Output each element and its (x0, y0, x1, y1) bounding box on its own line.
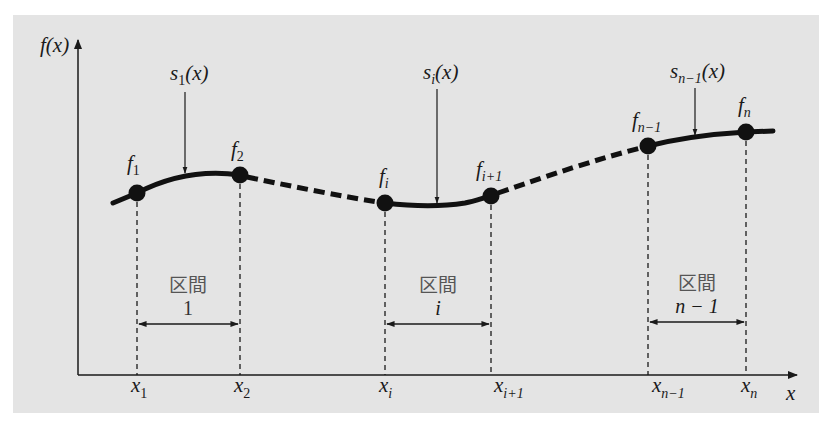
knot-point-n (738, 124, 755, 141)
knot-point-1 (129, 185, 146, 202)
y-axis-label: f(x) (40, 33, 69, 57)
knot-point-n1 (640, 138, 657, 155)
knot-point-i (377, 195, 394, 212)
knot-point-2 (232, 167, 249, 184)
interval-index-n1: n − 1 (675, 295, 719, 317)
cubic-spline-diagram: f(x) x f1 f2 fi fi+1 fn−1 fn (0, 0, 836, 426)
interval-label-1: 区間 (169, 274, 207, 296)
interval-label-n1: 区間 (678, 272, 716, 294)
interval-index-i: i (435, 297, 441, 319)
x-axis-label: x (785, 381, 796, 405)
interval-label-i: 区間 (419, 274, 457, 296)
knot-point-i1 (483, 188, 500, 205)
spline-label-i: si(x) (423, 60, 458, 87)
spline-label-1: s1(x) (170, 61, 209, 88)
interval-index-1: 1 (183, 297, 193, 319)
